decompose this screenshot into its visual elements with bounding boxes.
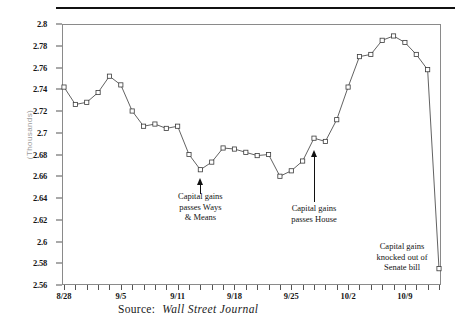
- arrow-shaft: [314, 156, 315, 202]
- x-tick-mark: [416, 285, 417, 290]
- annotation-passes-house: Capital gains passes House: [291, 203, 337, 224]
- x-tick-label: 9/11: [170, 291, 185, 301]
- x-tick-mark: [223, 285, 224, 290]
- x-tick-label: 10/9: [397, 291, 412, 301]
- x-tick-mark: [121, 285, 122, 290]
- x-tick-mark: [109, 285, 110, 290]
- x-tick-mark: [75, 285, 76, 290]
- y-tick-label: 2.66: [33, 171, 47, 181]
- x-tick-mark: [87, 285, 88, 290]
- x-tick-mark: [257, 285, 258, 290]
- x-tick-label: 10/2: [341, 291, 356, 301]
- y-tick-mark: [56, 67, 62, 68]
- source-name: Wall Street Journal: [162, 303, 258, 315]
- x-tick-mark: [132, 285, 133, 290]
- y-tick-label: 2.58: [33, 258, 47, 268]
- x-tick-mark: [166, 285, 167, 290]
- x-tick-mark: [280, 285, 281, 290]
- y-tick-mark: [56, 241, 62, 242]
- x-tick-mark: [155, 285, 156, 290]
- x-tick-label: 9/25: [284, 291, 299, 301]
- y-tick-mark: [56, 285, 62, 286]
- source-caption: Source:Wall Street Journal: [118, 303, 258, 315]
- y-tick-label: 2.62: [33, 215, 47, 225]
- y-axis-labels: 2.82.782.762.742.722.72.682.662.642.622.…: [0, 0, 62, 326]
- x-tick-mark: [98, 285, 99, 290]
- x-tick-mark: [144, 285, 145, 290]
- x-tick-mark: [405, 285, 406, 290]
- y-tick-mark: [56, 176, 62, 177]
- x-tick-mark: [64, 285, 65, 290]
- source-label: Source:: [118, 303, 155, 315]
- y-tick-label: 2.74: [33, 84, 47, 94]
- x-tick-mark: [359, 285, 360, 290]
- y-tick-label: 2.76: [33, 63, 47, 73]
- y-tick-mark: [56, 45, 62, 46]
- x-tick-mark: [178, 285, 179, 290]
- y-tick-label: 2.72: [33, 106, 47, 116]
- y-tick-mark: [56, 154, 62, 155]
- x-tick-mark: [348, 285, 349, 290]
- x-tick-label: 9/5: [115, 291, 126, 301]
- x-tick-mark: [382, 285, 383, 290]
- x-tick-mark: [269, 285, 270, 290]
- y-tick-mark: [56, 89, 62, 90]
- x-tick-mark: [394, 285, 395, 290]
- x-tick-mark: [189, 285, 190, 290]
- y-tick-label: 2.78: [33, 41, 47, 51]
- y-tick-label: 2.56: [33, 280, 47, 290]
- y-tick-label: 2.64: [33, 193, 47, 203]
- x-tick-mark: [325, 285, 326, 290]
- y-tick-label: 2.8: [37, 19, 47, 29]
- y-tick-mark: [56, 111, 62, 112]
- x-tick-mark: [234, 285, 235, 290]
- x-tick-label: 8/28: [56, 291, 71, 301]
- x-tick-mark: [291, 285, 292, 290]
- x-tick-label: 9/18: [227, 291, 242, 301]
- y-tick-mark: [56, 219, 62, 220]
- y-tick-label: 2.7: [37, 128, 47, 138]
- y-tick-mark: [56, 24, 62, 25]
- y-tick-mark: [56, 198, 62, 199]
- x-tick-mark: [439, 285, 440, 290]
- y-tick-mark: [56, 132, 62, 133]
- chart-page: (Thousands) 2.82.782.762.742.722.72.682.…: [0, 0, 463, 326]
- y-tick-label: 2.68: [33, 150, 47, 160]
- x-tick-mark: [428, 285, 429, 290]
- x-tick-mark: [246, 285, 247, 290]
- annotation-ways-and-means: Capital gains passes Ways & Means: [178, 191, 223, 223]
- x-tick-mark: [303, 285, 304, 290]
- x-tick-mark: [200, 285, 201, 290]
- x-tick-mark: [371, 285, 372, 290]
- x-tick-mark: [337, 285, 338, 290]
- y-tick-label: 2.6: [37, 237, 47, 247]
- annotation-senate-bill: Capital gains knocked out of Senate bill: [377, 241, 428, 273]
- top-rule: [56, 7, 455, 9]
- x-tick-mark: [212, 285, 213, 290]
- x-tick-mark: [314, 285, 315, 290]
- y-tick-mark: [56, 263, 62, 264]
